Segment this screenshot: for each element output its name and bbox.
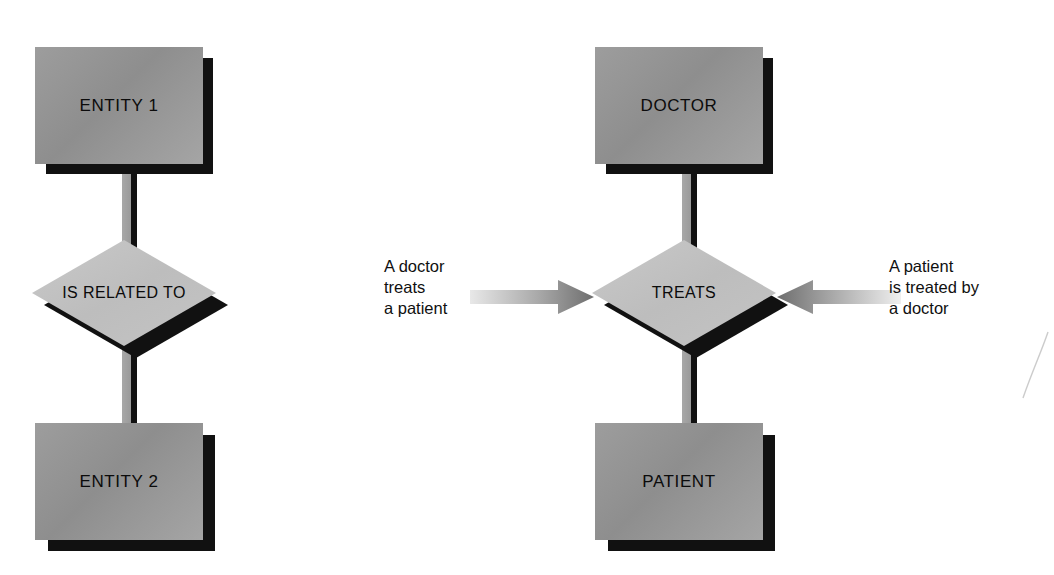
connector-shadow-entity1-diamond — [130, 166, 137, 252]
caption-doctor-treats-patient: A doctor treats a patient — [384, 256, 447, 319]
relationship-diamond-is-related-to[interactable]: IS RELATED TO — [32, 240, 216, 346]
scan-artifact-mark — [1020, 330, 1054, 406]
patient-label: PATIENT — [642, 472, 715, 492]
treats-label: TREATS — [652, 284, 716, 302]
entity-box-patient[interactable]: PATIENT — [595, 423, 763, 540]
entity2-label: ENTITY 2 — [79, 472, 158, 492]
entity1-label: ENTITY 1 — [79, 96, 158, 116]
er-diagram-canvas: ENTITY 1 IS RELATED TO ENTITY 2 DOCTOR T… — [0, 0, 1054, 575]
arrow-patient-treated-by-doctor — [776, 277, 901, 317]
caption-patient-treated-by-doctor: A patient is treated by a doctor — [889, 256, 979, 319]
entity-box-entity-1[interactable]: ENTITY 1 — [35, 47, 203, 164]
entity-box-entity-2[interactable]: ENTITY 2 — [35, 423, 203, 540]
relationship-diamond-treats[interactable]: TREATS — [592, 240, 776, 346]
relationship-label: IS RELATED TO — [62, 284, 185, 302]
doctor-label: DOCTOR — [641, 96, 718, 116]
connector-shadow-doctor-treats — [690, 166, 697, 252]
entity-box-doctor[interactable]: DOCTOR — [595, 47, 763, 164]
arrow-doctor-treats-patient — [470, 277, 595, 317]
